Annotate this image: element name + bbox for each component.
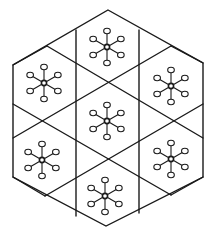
atom-icon [41, 96, 48, 101]
atom-icon [168, 67, 175, 72]
atom-icon [168, 99, 175, 104]
atom-icon [118, 126, 125, 131]
atom-icon [154, 164, 161, 169]
molecules [25, 28, 188, 214]
atom-icon [182, 91, 189, 96]
atom-icon [104, 134, 111, 139]
core-atom-icon [39, 157, 44, 162]
atom-icon [118, 110, 125, 115]
molecule-center [90, 102, 124, 139]
atom-icon [90, 52, 97, 57]
atom-icon [182, 164, 189, 169]
atom-icon [104, 102, 111, 107]
atom-icon [168, 140, 175, 145]
atom-icon [168, 172, 175, 177]
molecule-upper-right [154, 67, 188, 104]
atom-icon [118, 36, 125, 41]
molecule-lower-right [154, 140, 188, 177]
atom-icon [88, 201, 95, 206]
atom-icon [182, 75, 189, 80]
atom-icon [102, 209, 109, 214]
atom-icon [55, 88, 62, 93]
core-atom-icon [41, 80, 46, 85]
atom-icon [88, 185, 95, 190]
atom-icon [41, 64, 48, 69]
atom-icon [116, 201, 123, 206]
molecule-upper-left [27, 64, 61, 101]
atom-icon [104, 60, 111, 65]
atom-icon [39, 173, 46, 178]
grid-line [13, 177, 45, 196]
atom-icon [90, 110, 97, 115]
atom-icon [39, 141, 46, 146]
atom-icon [90, 36, 97, 41]
atom-icon [104, 28, 111, 33]
atom-icon [27, 88, 34, 93]
grid-line [45, 104, 203, 196]
core-atom-icon [104, 118, 109, 123]
core-atom-icon [168, 83, 173, 88]
grid-line [13, 46, 171, 138]
atom-icon [90, 126, 97, 131]
core-atom-icon [104, 44, 109, 49]
grid-line [171, 46, 203, 63]
atom-icon [154, 75, 161, 80]
core-atom-icon [102, 193, 107, 198]
molecule-lower-left [25, 141, 59, 178]
atom-icon [53, 149, 60, 154]
molecule-top [90, 28, 124, 65]
grid-line [13, 46, 47, 65]
hexagon-tiling-diagram [0, 0, 211, 245]
grid-line [171, 177, 203, 195]
atom-icon [154, 148, 161, 153]
atom-icon [53, 165, 60, 170]
atom-icon [102, 177, 109, 182]
molecule-bottom [88, 177, 122, 214]
atom-icon [25, 165, 32, 170]
atom-icon [55, 72, 62, 77]
grid-line [47, 46, 203, 138]
atom-icon [27, 72, 34, 77]
atom-icon [182, 148, 189, 153]
atom-icon [118, 52, 125, 57]
atom-icon [154, 91, 161, 96]
core-atom-icon [168, 156, 173, 161]
atom-icon [116, 185, 123, 190]
grid-line [13, 104, 171, 195]
atom-icon [25, 149, 32, 154]
